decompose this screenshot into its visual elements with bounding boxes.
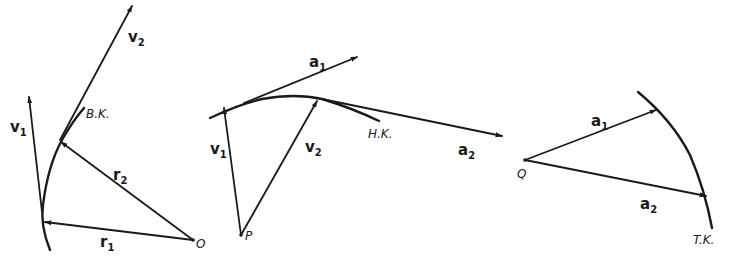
origin-point-p <box>239 233 243 237</box>
label-origin-p: P <box>245 229 253 243</box>
label-a1-panel3: a1 <box>591 112 608 132</box>
label-v1-panel2: v1 <box>210 140 227 160</box>
label-r1: r1 <box>100 233 114 253</box>
label-a2-panel3: a2 <box>640 195 657 215</box>
origin-point-o <box>191 238 195 242</box>
vector-r2 <box>61 142 193 240</box>
hodograph-curve-hk <box>210 96 379 121</box>
trajectory-curve-bk <box>42 108 84 250</box>
vector-v2-panel2 <box>241 101 317 235</box>
origin-point-q <box>523 158 527 162</box>
vector-v1-panel2 <box>224 108 241 235</box>
panel-hodograph: a1 v1 v2 H.K. a2 P <box>210 53 502 243</box>
vector-r1 <box>45 222 193 240</box>
panel-trajectory: v2 B.K. v1 r2 r1 O <box>10 6 205 253</box>
label-origin-o: O <box>196 237 205 251</box>
vector-a2-panel2 <box>322 99 502 136</box>
label-v2-panel2: v2 <box>305 138 322 158</box>
label-curve-bk: B.K. <box>86 107 110 121</box>
label-curve-tk: T.K. <box>693 233 714 247</box>
vector-a2-panel3 <box>525 160 706 196</box>
panel-acceleration: a1 Q a2 T.K. <box>517 92 714 247</box>
vector-v1-panel1 <box>29 97 42 212</box>
label-origin-q: Q <box>517 167 526 181</box>
kinematics-diagram: v2 B.K. v1 r2 r1 O a1 v1 v2 H.K. a2 P a1… <box>0 0 731 259</box>
label-v1-panel1: v1 <box>10 118 27 138</box>
label-a1-panel2: a1 <box>309 53 326 73</box>
label-a2-panel2: a2 <box>458 141 475 161</box>
label-v2-panel1: v2 <box>128 28 145 48</box>
label-curve-hk: H.K. <box>368 127 393 141</box>
label-r2: r2 <box>113 166 127 186</box>
